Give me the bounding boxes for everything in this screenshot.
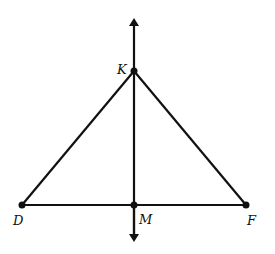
segment-kd xyxy=(22,71,134,205)
point-d xyxy=(19,202,26,209)
label-m: M xyxy=(138,212,153,227)
segment-kf xyxy=(134,71,246,205)
label-d: D xyxy=(12,213,24,228)
geometry-diagram: K D M F xyxy=(0,0,275,254)
label-f: F xyxy=(246,213,257,228)
point-f xyxy=(243,202,250,209)
point-m xyxy=(131,202,138,209)
label-k: K xyxy=(116,62,128,77)
point-k xyxy=(131,68,138,75)
